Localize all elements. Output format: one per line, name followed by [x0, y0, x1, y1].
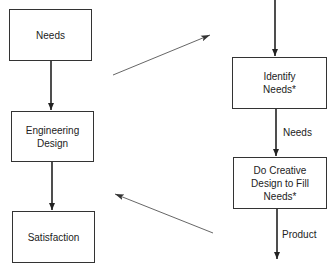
- arrow-right-to-left: [115, 194, 213, 233]
- box-satisfaction: Satisfaction: [12, 211, 95, 263]
- box-engineering-design-label: Engineering Design: [22, 124, 83, 150]
- arrow-left-to-right: [113, 35, 210, 75]
- box-creative-design-label: Do Creative Design to Fill Needs*: [246, 164, 314, 203]
- box-satisfaction-label: Satisfaction: [28, 231, 80, 244]
- box-needs-label: Needs: [36, 29, 65, 42]
- edge-label-needs: Needs: [283, 127, 312, 139]
- box-engineering-design: Engineering Design: [11, 111, 94, 162]
- box-identify-needs: Identify Needs*: [232, 57, 327, 109]
- box-creative-design: Do Creative Design to Fill Needs*: [233, 157, 327, 209]
- box-identify-needs-label: Identify Needs*: [255, 70, 304, 96]
- box-needs: Needs: [9, 9, 92, 61]
- edge-label-product: Product: [282, 229, 316, 241]
